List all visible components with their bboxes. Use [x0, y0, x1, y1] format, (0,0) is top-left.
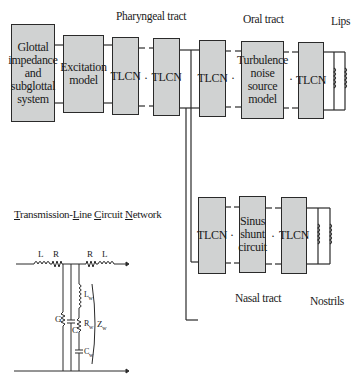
subscript: w [89, 324, 93, 330]
continuation-dot: · [271, 230, 275, 242]
title-initial: N [125, 208, 133, 220]
block-text: and [25, 67, 41, 80]
title-text: ine [79, 208, 94, 220]
wall-impedance-label: Zw [97, 319, 106, 331]
continuation-dot: · [230, 229, 234, 241]
continuation-dot: · [144, 72, 148, 84]
block-text: Glottal [17, 41, 48, 54]
block-text: model [248, 93, 277, 106]
title-text: ransmission- [20, 208, 73, 220]
subscript: w [102, 325, 106, 331]
tlcn-junction-block: TLCN [199, 40, 226, 117]
block-text: circuit [238, 241, 267, 254]
excitation-model-block: Excitation model [63, 35, 104, 113]
wall-capacitance-label: Cw [84, 347, 93, 358]
title-text: etwork [133, 208, 162, 220]
continuation-dot: · [231, 72, 235, 84]
block-text: system [17, 93, 49, 106]
wall-resistance-label: Rw [84, 319, 93, 330]
nostrils-label: Nostrils [310, 295, 344, 307]
tlcn-nasal-2-block: TLCN [281, 197, 307, 274]
tlcn-pharyngeal-2-block: TLCN [153, 38, 180, 116]
nasal-tract-label: Nasal tract [235, 292, 281, 304]
turbulence-noise-source-block: Turbulence noise source model [241, 41, 284, 119]
tlcn-pharyngeal-1-block: TLCN [112, 37, 139, 115]
title-text: ircuit [101, 208, 125, 220]
resistor-label-left: R [53, 249, 59, 259]
block-text: subglottal [11, 80, 55, 93]
circuit-title: Transmission-Line Circuit Network [14, 208, 161, 220]
conductance-label: G [55, 314, 61, 324]
resistor-label-right: R [87, 249, 93, 259]
block-text: model [69, 74, 98, 87]
sinus-shunt-circuit-block: Sinus shunt circuit [239, 196, 266, 273]
continuation-dot: · [289, 73, 293, 85]
oral-tract-label: Oral tract [243, 13, 284, 25]
subscript: w [89, 295, 93, 301]
capacitance-label: C [72, 325, 78, 335]
tlcn-oral-block: TLCN [298, 42, 324, 119]
wall-inductance-label: Lw [84, 290, 93, 301]
tlcn-circuit-schematic [14, 261, 129, 373]
tlcn-nasal-1-block: TLCN [198, 197, 226, 274]
pharyngeal-tract-label: Pharyngeal tract [116, 10, 186, 22]
inductor-label-left: L [38, 249, 43, 259]
glottal-impedance-block: Glottal impedance and subglottal system [11, 24, 55, 122]
inductor-label-right: L [102, 249, 107, 259]
block-text: impedance [8, 54, 57, 67]
subscript: w [89, 352, 93, 358]
lips-label: Lips [331, 15, 350, 27]
